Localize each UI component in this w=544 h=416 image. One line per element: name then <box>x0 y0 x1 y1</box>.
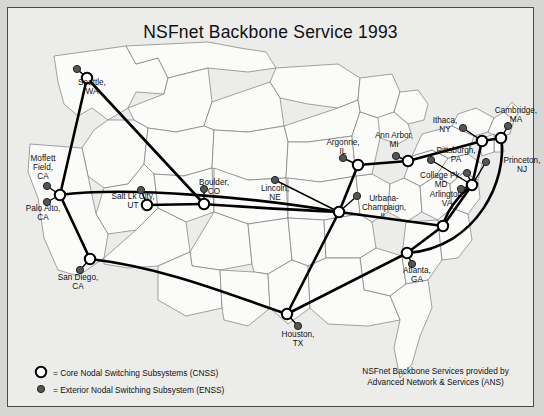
map-card: NSFnet Backbone Service 1993 <box>7 7 534 407</box>
legend-markers <box>8 8 535 408</box>
screenshot-frame: NSFnet Backbone Service 1993 <box>0 0 544 416</box>
credit-line-1: NSFnet Backbone Services provided by <box>348 366 523 377</box>
credit-line-2: Advanced Network & Services (ANS) <box>348 377 523 388</box>
legend-enss-icon <box>37 385 44 392</box>
legend-enss-label: = Exterior Nodal Switching Subsystem (EN… <box>53 385 224 395</box>
legend-cnss-label: = Core Nodal Switching Subsystems (CNSS) <box>53 368 218 378</box>
legend-cnss-icon <box>36 367 46 377</box>
